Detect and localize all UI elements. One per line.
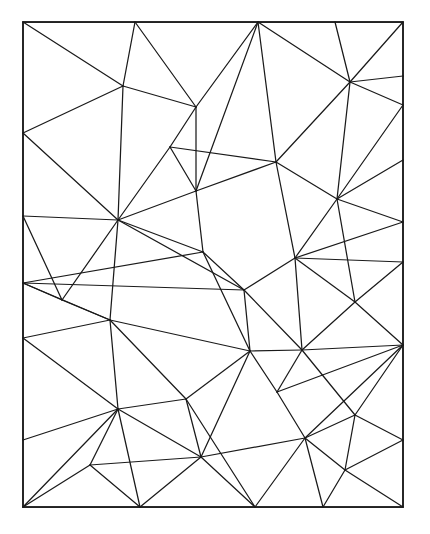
mesh-edge <box>118 191 196 220</box>
mesh-edge <box>110 320 186 399</box>
mesh-edge <box>23 283 62 300</box>
mesh-edge <box>323 470 345 507</box>
mesh-edge <box>277 392 305 438</box>
mesh-edge <box>170 147 276 162</box>
mesh-edge <box>196 191 203 252</box>
mesh-edge <box>118 147 170 220</box>
mesh-edge <box>295 222 403 258</box>
mesh-edge <box>90 457 201 465</box>
mesh-edge <box>118 399 186 409</box>
mesh-edge <box>276 82 350 162</box>
triangular-mesh-canvas <box>0 0 430 534</box>
mesh-edge <box>276 162 295 258</box>
mesh-edge <box>355 302 403 345</box>
mesh-edge <box>295 258 403 262</box>
mesh-edge <box>118 220 244 290</box>
mesh-edge <box>23 216 118 220</box>
mesh-edge <box>118 86 123 220</box>
mesh-edge <box>255 438 305 507</box>
mesh-edge <box>123 86 196 107</box>
mesh-edge <box>244 290 250 351</box>
mesh-edge <box>250 351 277 392</box>
mesh-edge <box>170 147 196 191</box>
mesh-edge <box>23 320 110 338</box>
mesh-edge <box>305 415 355 438</box>
mesh-edge <box>337 160 403 199</box>
mesh-edge <box>203 252 250 351</box>
mesh-edge <box>62 300 110 320</box>
mesh-edge <box>295 258 302 350</box>
mesh-edge <box>350 22 403 82</box>
mesh-edge <box>244 290 302 350</box>
mesh-edge <box>337 199 355 302</box>
mesh-edge <box>355 262 403 302</box>
mesh-edge <box>305 345 403 438</box>
mesh-edge <box>258 22 350 82</box>
mesh-edge <box>302 302 355 350</box>
mesh-edge <box>186 351 250 399</box>
mesh-edge <box>355 415 403 440</box>
mesh-edge <box>110 220 118 320</box>
mesh-edge <box>118 409 140 507</box>
mesh-figure <box>0 0 430 534</box>
mesh-edge <box>23 133 118 220</box>
mesh-edge <box>305 438 323 507</box>
mesh-edge <box>23 216 62 300</box>
mesh-edge <box>337 105 403 199</box>
mesh-edge <box>196 162 276 191</box>
mesh-edge-layer <box>23 22 403 507</box>
mesh-edge <box>186 399 201 457</box>
mesh-edge <box>62 220 118 300</box>
mesh-edge <box>135 22 196 107</box>
domain-boundary-rect <box>23 22 403 507</box>
mesh-edge <box>276 162 337 199</box>
mesh-edge <box>23 465 90 507</box>
mesh-edge <box>337 199 403 222</box>
mesh-edge <box>118 409 201 457</box>
mesh-edge <box>258 22 276 162</box>
mesh-edge <box>110 320 118 409</box>
mesh-edge <box>201 351 250 457</box>
mesh-edge <box>244 258 295 290</box>
mesh-edge <box>23 86 123 133</box>
mesh-edge <box>337 82 350 199</box>
mesh-edge <box>23 338 118 409</box>
mesh-edge <box>140 457 201 507</box>
mesh-edge <box>196 22 258 107</box>
mesh-edge <box>350 82 403 105</box>
mesh-edge <box>305 438 345 470</box>
mesh-edge <box>23 409 118 507</box>
mesh-edge <box>110 320 250 351</box>
mesh-edge <box>170 107 196 147</box>
mesh-edge <box>295 258 355 302</box>
mesh-edge <box>196 22 258 191</box>
mesh-edge <box>118 220 203 252</box>
mesh-edge <box>345 440 403 470</box>
mesh-edge <box>302 350 355 415</box>
mesh-edge <box>123 22 135 86</box>
mesh-edge <box>302 345 403 350</box>
mesh-edge <box>277 350 302 392</box>
mesh-edge <box>345 415 355 470</box>
mesh-edge <box>23 22 123 86</box>
mesh-edge <box>250 350 302 351</box>
mesh-edge <box>345 470 403 507</box>
mesh-edge <box>295 199 337 258</box>
mesh-edge <box>355 345 403 415</box>
mesh-edge <box>350 76 403 82</box>
mesh-edge <box>277 345 403 392</box>
